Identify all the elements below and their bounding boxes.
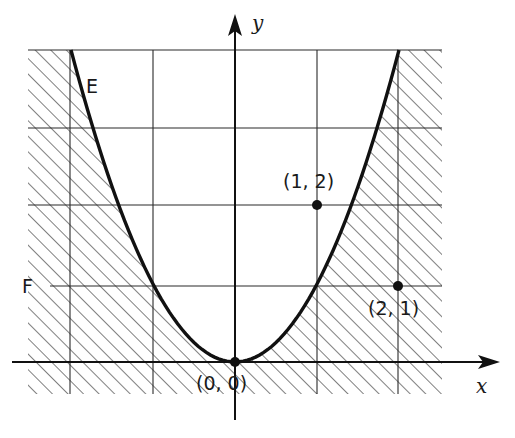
point-2-1 (393, 281, 403, 291)
point-1-2 (312, 200, 322, 210)
line-label-F: F (22, 275, 33, 297)
curve-label-E: E (86, 75, 98, 97)
point-label-origin: (0, 0) (196, 372, 247, 394)
diagram-canvas: y x E F (0, 0) (1, 2) (2, 1) (0, 0, 515, 438)
y-axis-label: y (251, 11, 264, 35)
point-label-2-1: (2, 1) (368, 297, 419, 319)
point-label-1-2: (1, 2) (283, 170, 334, 192)
point-origin (230, 357, 240, 367)
x-axis-label: x (476, 374, 487, 398)
